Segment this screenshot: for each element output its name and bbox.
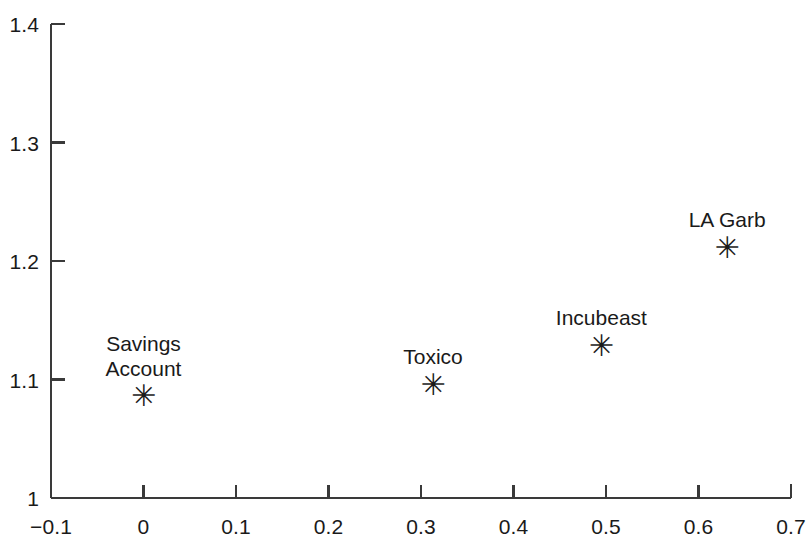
y-tick-label: 1.3 [10, 132, 40, 153]
x-tick-label: 0.6 [684, 516, 714, 537]
x-tick-label: −0.1 [30, 516, 72, 537]
scatter-chart: 11.11.21.31.4 −0.100.10.20.30.40.50.60.7… [0, 0, 812, 556]
x-tick-label: 0.5 [591, 516, 621, 537]
x-tick-label: 0.2 [314, 516, 344, 537]
y-axis-ticks [51, 143, 65, 380]
data-point-marker: ✳ [715, 233, 740, 263]
x-axis-ticks [144, 485, 699, 498]
y-tick-label: 1.4 [10, 14, 40, 35]
x-tick-label: 0 [138, 516, 150, 537]
y-tick-label: 1.1 [10, 369, 40, 390]
x-tick-label: 0.3 [406, 516, 436, 537]
data-point-marker: ✳ [589, 331, 614, 361]
data-point-label: Savings Account [106, 332, 182, 382]
y-tick-label: 1 [27, 488, 39, 509]
data-point-marker: ✳ [131, 381, 156, 411]
x-tick-label: 0.4 [499, 516, 529, 537]
y-tick-label: 1.2 [10, 251, 40, 272]
data-point-marker: ✳ [420, 370, 445, 400]
axis-lines [51, 24, 791, 498]
x-tick-label: 0.7 [776, 516, 806, 537]
x-tick-label: 0.1 [221, 516, 251, 537]
plot-axes [0, 0, 812, 556]
